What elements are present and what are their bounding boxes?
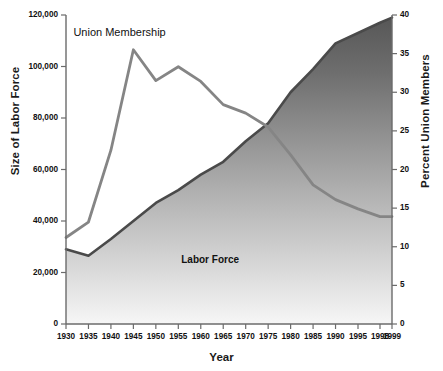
y-tick-label-left: 60,000 [0, 165, 58, 174]
y-tick-label-left: 20,000 [0, 268, 58, 277]
chart-plot-area [0, 0, 443, 371]
y-tick-label-right: 5 [400, 280, 424, 289]
y-tick-label-left: 120,000 [0, 10, 58, 19]
labor-force-label: Labor Force [181, 254, 239, 265]
y-tick-label-left: 100,000 [0, 62, 58, 71]
chart-root: Size of Labor Force Percent Union Member… [0, 0, 443, 371]
y-tick-label-left: 0 [0, 319, 58, 328]
y-tick-label-right: 35 [400, 49, 424, 58]
y-tick-label-right: 20 [400, 165, 424, 174]
y-tick-label-right: 25 [400, 126, 424, 135]
x-tick-label: 1999 [377, 332, 407, 341]
y-tick-label-right: 0 [400, 319, 424, 328]
y-tick-label-right: 40 [400, 10, 424, 19]
x-axis-title: Year [0, 351, 443, 363]
y-tick-label-left: 80,000 [0, 113, 58, 122]
y-tick-label-right: 10 [400, 242, 424, 251]
y-tick-label-right: 15 [400, 203, 424, 212]
y-axis-right-title: Percent Union Members [419, 41, 431, 201]
y-tick-label-right: 30 [400, 87, 424, 96]
union-membership-label: Union Membership [73, 26, 165, 38]
y-tick-label-left: 40,000 [0, 216, 58, 225]
labor-force-area [66, 18, 392, 324]
